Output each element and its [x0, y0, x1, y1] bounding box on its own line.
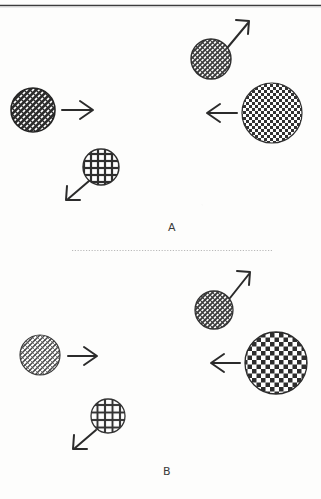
panel-a-right-large-circle — [242, 83, 302, 143]
panel-b-arrow-up-right — [230, 271, 250, 298]
panel-b — [20, 271, 307, 449]
panel-b-left-circle — [20, 335, 60, 375]
panel-a-upper-right-circle — [191, 39, 231, 79]
top-rule — [0, 6, 321, 8]
panel-b-label: B — [163, 465, 171, 478]
panel-a-arrow-up-right — [228, 20, 249, 47]
panel-a-left-circle — [11, 88, 55, 132]
panel-a-arrow-down-left — [66, 181, 89, 200]
panel-b-arrow-left — [211, 354, 240, 372]
panel-a — [11, 20, 302, 200]
panel-b-lower-left-circle — [91, 399, 125, 433]
panel-a-label: A — [168, 221, 176, 234]
panel-b-right-large-circle — [245, 332, 307, 394]
panel-b-upper-right-circle — [195, 291, 233, 329]
panel-b-arrow-down-left — [73, 430, 96, 449]
figure-canvas — [0, 0, 321, 499]
panel-a-lower-left-circle — [83, 149, 119, 185]
panel-b-arrow-right — [68, 347, 97, 365]
panel-a-arrow-right — [62, 101, 93, 119]
panel-a-arrow-left — [207, 104, 237, 122]
scanned-figure: A B — [0, 0, 321, 499]
